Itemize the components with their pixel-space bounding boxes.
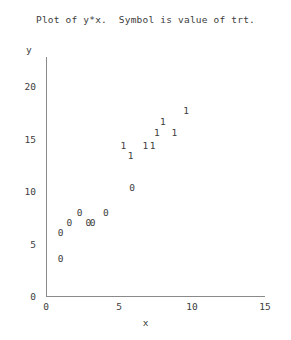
x-tick-label: 5: [104, 301, 134, 312]
x-tick-label: 10: [177, 301, 207, 312]
data-point-symbol-0: 0: [103, 208, 109, 218]
data-point-symbol-1: 1: [142, 141, 148, 151]
y-tick-label: 5: [10, 238, 36, 249]
data-point-symbol-1: 1: [172, 129, 178, 139]
y-axis-line: [46, 57, 47, 296]
y-tick-label: 20: [10, 81, 36, 92]
y-tick-label: 0: [10, 291, 36, 302]
data-point-symbol-0: 0: [58, 255, 64, 265]
data-point-symbol-1: 1: [150, 141, 156, 151]
data-point-symbol-0: 0: [77, 208, 83, 218]
x-tick-label: 0: [31, 301, 61, 312]
data-point-symbol-1: 1: [121, 141, 127, 151]
scatter-plot-figure: Plot of y*x. Symbol is value of trt. y x…: [0, 0, 291, 340]
x-axis-line: [46, 296, 265, 297]
data-point-symbol-1: 1: [128, 152, 134, 162]
data-point-symbol-1: 1: [160, 117, 166, 127]
data-point-symbol-0: 0: [66, 218, 72, 228]
data-point-symbol-1: 1: [183, 106, 189, 116]
x-axis-title: x: [0, 317, 291, 328]
x-tick-label: 15: [250, 301, 280, 312]
chart-title: Plot of y*x. Symbol is value of trt.: [0, 14, 291, 25]
y-tick-label: 15: [10, 133, 36, 144]
data-point-symbol-1: 1: [154, 129, 160, 139]
y-axis-title: y: [26, 44, 32, 55]
data-point-symbol-0: 0: [90, 218, 96, 228]
data-point-symbol-0: 0: [129, 183, 135, 193]
data-point-symbol-0: 0: [58, 228, 64, 238]
y-tick-label: 10: [10, 186, 36, 197]
